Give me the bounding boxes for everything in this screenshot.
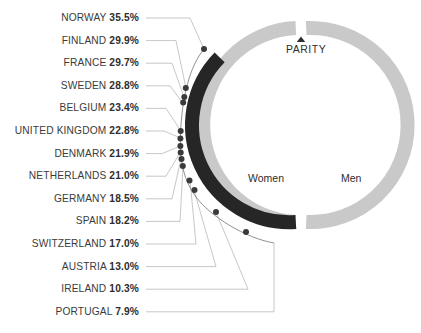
leader-line — [146, 159, 181, 199]
infographic-root: NORWAY 35.5% FINLAND 29.9% FRANCE 29.7% … — [0, 0, 421, 333]
leader-line — [146, 212, 248, 289]
men-segment-label: Men — [341, 172, 361, 184]
data-point — [177, 143, 183, 149]
leader-line — [146, 63, 184, 97]
data-point — [192, 187, 198, 193]
leader-line — [146, 152, 181, 176]
leader-line — [146, 243, 274, 312]
data-point — [181, 94, 187, 100]
parity-marker-icon — [297, 37, 305, 43]
leader-line — [146, 41, 186, 88]
data-point — [177, 136, 183, 142]
parity-label: PARITY — [286, 43, 326, 55]
leader-line — [146, 131, 181, 138]
leader-line — [146, 180, 196, 244]
data-point — [183, 85, 189, 91]
data-point — [187, 178, 193, 184]
data-point — [180, 163, 186, 169]
chart-vector-layer — [0, 0, 421, 333]
donut-segment-men — [306, 28, 407, 222]
data-point — [178, 128, 184, 134]
data-point — [179, 156, 185, 162]
data-point — [243, 229, 249, 235]
data-point — [180, 100, 186, 106]
leader-line — [146, 18, 204, 49]
leader-line — [146, 108, 181, 131]
women-segment-label: Women — [248, 172, 284, 184]
data-point — [178, 150, 184, 156]
data-point — [201, 46, 207, 52]
data-point — [213, 209, 219, 215]
leader-line — [146, 86, 182, 102]
leader-line — [146, 146, 181, 154]
